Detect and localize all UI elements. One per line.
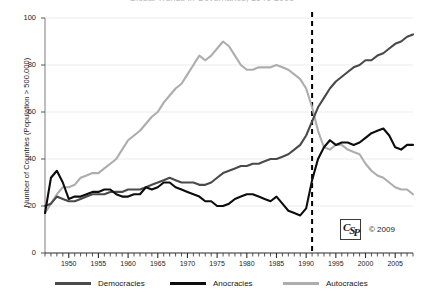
- x-tick-label: 1955: [84, 260, 112, 267]
- series-line-democracies: [45, 34, 413, 206]
- legend-item-autocracies[interactable]: Autocracies: [283, 276, 368, 290]
- y-tick-label: 0: [20, 248, 36, 257]
- x-tick-label: 2000: [352, 260, 380, 267]
- y-tick-label: 60: [20, 107, 36, 116]
- csp-logo-letter-p: P: [353, 226, 359, 238]
- x-tick-label: 1980: [233, 260, 261, 267]
- legend-label-autocracies: Autocracies: [326, 279, 368, 288]
- y-tick-label: 40: [20, 154, 36, 163]
- legend-swatch-autocracies: [283, 282, 319, 285]
- chart-page: Global Trends in Governance, 1946-2008 N…: [0, 0, 423, 296]
- legend-item-anocracies[interactable]: Anocracies: [170, 276, 253, 290]
- x-tick-label: 1970: [173, 260, 201, 267]
- series-line-autocracies: [45, 42, 413, 214]
- plot-area: [0, 0, 423, 296]
- legend-item-democracies[interactable]: Democracies: [55, 276, 145, 290]
- legend-swatch-anocracies: [170, 282, 206, 285]
- legend-swatch-democracies: [55, 282, 91, 285]
- x-tick-label: 1950: [55, 260, 83, 267]
- x-tick-label: 1995: [322, 260, 350, 267]
- x-tick-label: 2005: [381, 260, 409, 267]
- y-tick-label: 80: [20, 60, 36, 69]
- y-tick-label: 100: [20, 13, 36, 22]
- chart-legend: Democracies Anocracies Autocracies: [0, 276, 423, 294]
- csp-logo-text: CSP: [343, 222, 360, 233]
- x-tick-label: 1985: [262, 260, 290, 267]
- copyright-text: © 2009: [369, 225, 395, 234]
- x-tick-label: 1975: [203, 260, 231, 267]
- csp-logo-box: CSP: [340, 219, 361, 240]
- x-tick-label: 1960: [114, 260, 142, 267]
- x-tick-label: 1990: [292, 260, 320, 267]
- y-tick-label: 20: [20, 201, 36, 210]
- legend-label-democracies: Democracies: [98, 279, 145, 288]
- x-tick-label: 1965: [144, 260, 172, 267]
- legend-label-anocracies: Anocracies: [213, 279, 253, 288]
